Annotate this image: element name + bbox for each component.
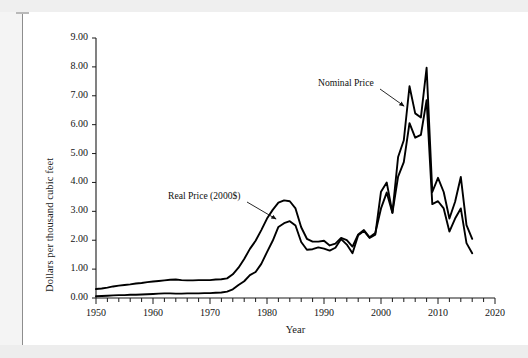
y-tick-label: 6.00 — [54, 118, 88, 129]
x-tick-label: 2000 — [359, 307, 403, 318]
x-tick-label: 2020 — [473, 307, 517, 318]
chart-annotation-label: Nominal Price — [318, 77, 374, 88]
x-tick-label: 2010 — [416, 307, 460, 318]
gas-price-line-chart: 0.001.002.003.004.005.006.007.008.009.00… — [0, 0, 528, 358]
y-tick-label: 9.00 — [54, 31, 88, 42]
y-tick-label: 8.00 — [54, 60, 88, 71]
y-tick-label: 4.00 — [54, 175, 88, 186]
y-tick-label: 7.00 — [54, 89, 88, 100]
y-tick-label: 0.00 — [54, 291, 88, 302]
y-tick-label: 3.00 — [54, 204, 88, 215]
x-axis-title: Year — [96, 324, 495, 335]
x-tick-label: 1950 — [74, 307, 118, 318]
y-tick-label: 5.00 — [54, 147, 88, 158]
page-root: 0.001.002.003.004.005.006.007.008.009.00… — [0, 0, 528, 358]
x-tick-label: 1960 — [131, 307, 175, 318]
x-tick-label: 1990 — [302, 307, 346, 318]
x-tick-label: 1970 — [188, 307, 232, 318]
x-tick-label: 1980 — [245, 307, 289, 318]
chart-annotation-arrow — [380, 89, 404, 106]
y-tick-label: 2.00 — [54, 233, 88, 244]
chart-annotation-label: Real Price (2000$) — [168, 190, 240, 201]
y-tick-label: 1.00 — [54, 262, 88, 273]
y-axis-title: Dollars per thousand cubic feet — [44, 158, 55, 292]
series-line — [96, 68, 472, 297]
series-line — [96, 100, 472, 289]
